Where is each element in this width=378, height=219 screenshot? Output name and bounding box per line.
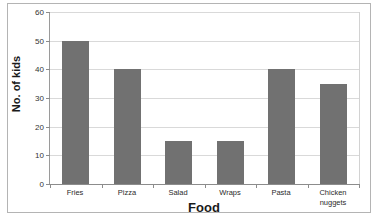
bar-pasta xyxy=(268,69,295,184)
bar-fries xyxy=(62,41,89,184)
y-tick-mark xyxy=(46,155,50,156)
bar-pizza xyxy=(114,69,141,184)
category-label-line: Fries xyxy=(49,188,101,198)
y-axis-title: No. of kids xyxy=(10,24,22,144)
plot-area: 0102030405060 xyxy=(49,12,360,184)
y-tick-label: 10 xyxy=(35,151,44,160)
gridline xyxy=(50,12,359,13)
category-label: Wraps xyxy=(204,188,256,198)
gridline xyxy=(50,98,359,99)
y-tick-label: 0 xyxy=(40,180,44,189)
y-tick-label: 20 xyxy=(35,122,44,131)
y-tick-label: 30 xyxy=(35,94,44,103)
bar-chicken-nuggets xyxy=(320,84,347,184)
category-label-line: Salad xyxy=(152,188,204,198)
x-tick-mark xyxy=(359,184,360,188)
y-tick-label: 60 xyxy=(35,8,44,17)
category-label: Pizza xyxy=(101,188,153,198)
gridline xyxy=(50,69,359,70)
category-label: Salad xyxy=(152,188,204,198)
category-label: Pasta xyxy=(255,188,307,198)
bar-chart-figure: No. of kids 0102030405060 FriesPizzaSala… xyxy=(0,0,378,219)
y-tick-mark xyxy=(46,12,50,13)
category-label: Fries xyxy=(49,188,101,198)
x-axis-title: Food xyxy=(49,200,359,215)
category-label-line: Pasta xyxy=(255,188,307,198)
bar-salad xyxy=(165,141,192,184)
y-tick-mark xyxy=(46,127,50,128)
y-tick-mark xyxy=(46,98,50,99)
y-tick-label: 50 xyxy=(35,36,44,45)
category-label-line: Wraps xyxy=(204,188,256,198)
gridline xyxy=(50,155,359,156)
bar-wraps xyxy=(217,141,244,184)
y-tick-mark xyxy=(46,69,50,70)
y-tick-mark xyxy=(46,41,50,42)
y-tick-label: 40 xyxy=(35,65,44,74)
category-label-line: Chicken xyxy=(307,188,359,198)
category-label-line: Pizza xyxy=(101,188,153,198)
gridline xyxy=(50,127,359,128)
gridline xyxy=(50,41,359,42)
